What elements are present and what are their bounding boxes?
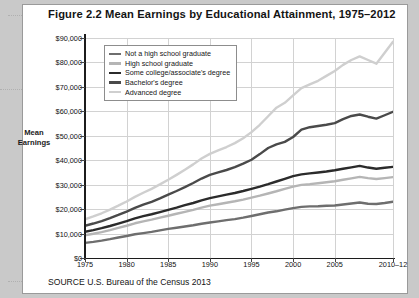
y-tick-label: $80,000 — [56, 58, 82, 67]
series-line — [85, 177, 393, 235]
x-tick-label: 2005 — [327, 260, 343, 269]
legend-label: Not a high school graduate — [125, 49, 211, 58]
y-tick-label: $70,000 — [56, 83, 82, 92]
x-tick-labels: 19751980198519901995200020052010–12 — [85, 260, 397, 272]
legend-item: Some college/associate's degree — [109, 68, 230, 78]
legend-item: Not a high school graduate — [109, 49, 230, 59]
y-axis-tick — [80, 160, 85, 161]
legend-swatch — [109, 91, 121, 94]
x-axis-line — [83, 258, 395, 259]
y-tick-label: $90,000 — [56, 34, 82, 43]
source-note: SOURCE U.S. Bureau of the Census 2013 — [48, 277, 211, 287]
legend-label: Advanced degree — [125, 88, 181, 97]
y-tick-label: $40,000 — [56, 156, 82, 165]
y-tick-label: $60,000 — [56, 107, 82, 116]
y-tick-label: $10,000 — [56, 230, 82, 239]
y-tick-labels: $0$10,000$20,000$30,000$40,000$50,000$60… — [38, 38, 82, 258]
y-axis-tick — [80, 185, 85, 186]
legend-swatch — [109, 62, 121, 65]
source-label: SOURCE — [48, 277, 85, 287]
y-tick-label: $20,000 — [56, 205, 82, 214]
y-tick-label: $30,000 — [56, 181, 82, 190]
y-axis-tick — [80, 87, 85, 88]
legend-label: High school graduate — [125, 59, 193, 68]
y-axis-tick — [80, 111, 85, 112]
legend-swatch — [109, 72, 121, 75]
legend-swatch — [109, 81, 121, 84]
x-tick-label: 1990 — [202, 260, 218, 269]
y-axis-tick — [80, 62, 85, 63]
y-axis-tick — [80, 38, 85, 39]
gridline-vertical — [393, 38, 394, 258]
legend-swatch — [109, 53, 121, 56]
x-tick-label: 1985 — [160, 260, 176, 269]
y-axis-tick — [80, 136, 85, 137]
page-background: Figure 2.2 Mean Earnings by Educational … — [0, 0, 419, 298]
y-tick-label: $50,000 — [56, 132, 82, 141]
x-tick-label: 1995 — [243, 260, 259, 269]
chart-legend: Not a high school graduateHigh school gr… — [104, 45, 237, 101]
y-axis-line — [84, 34, 86, 260]
x-tick-label: 1980 — [118, 260, 134, 269]
x-tick-label: 1975 — [77, 260, 93, 269]
x-tick-label: 2000 — [285, 260, 301, 269]
x-tick-label: 2010–12 — [379, 260, 407, 269]
legend-item: Bachelor's degree — [109, 78, 230, 88]
source-text: U.S. Bureau of the Census 2013 — [87, 277, 211, 287]
legend-item: Advanced degree — [109, 87, 230, 97]
legend-label: Some college/associate's degree — [125, 68, 230, 77]
figure-title: Figure 2.2 Mean Earnings by Educational … — [48, 8, 393, 20]
legend-item: High school graduate — [109, 59, 230, 69]
y-axis-tick — [80, 234, 85, 235]
legend-label: Bachelor's degree — [125, 78, 183, 87]
series-line — [85, 202, 393, 243]
y-axis-tick — [80, 209, 85, 210]
